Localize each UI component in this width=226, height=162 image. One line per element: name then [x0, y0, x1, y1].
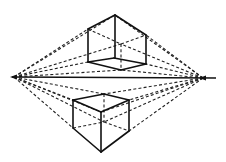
construction-line: [14, 15, 115, 77]
hidden-edge: [88, 29, 121, 44]
perspective-diagram: [0, 0, 226, 162]
construction-line: [14, 77, 73, 128]
visible-edge: [88, 62, 121, 70]
visible-edge: [104, 94, 129, 100]
hidden-edge: [104, 122, 129, 131]
visible-edge: [88, 15, 115, 29]
construction-line: [101, 78, 203, 112]
construction-line: [104, 78, 203, 94]
visible-edge: [114, 58, 146, 64]
hidden-edge: [73, 122, 104, 128]
construction-line: [121, 70, 203, 78]
hidden-edge: [121, 35, 146, 44]
construction-lines: [14, 15, 203, 131]
visible-edge: [121, 64, 146, 70]
left-vanishing-point-icon: [10, 75, 17, 80]
right-vanishing-point-icon: [199, 76, 206, 81]
construction-line: [14, 77, 104, 94]
visible-edge: [101, 100, 129, 112]
visible-edge: [73, 128, 101, 152]
construction-line: [14, 44, 121, 77]
visible-edge: [101, 131, 129, 152]
cubes: [73, 15, 146, 152]
upper-cube: [88, 15, 146, 70]
visible-edge: [115, 15, 146, 35]
construction-line: [104, 78, 203, 122]
visible-edge: [88, 58, 114, 62]
visible-edge: [73, 100, 101, 112]
horizon-line: [12, 77, 216, 78]
visible-edge: [73, 94, 104, 100]
lower-cube: [73, 94, 129, 152]
construction-line: [129, 78, 203, 131]
